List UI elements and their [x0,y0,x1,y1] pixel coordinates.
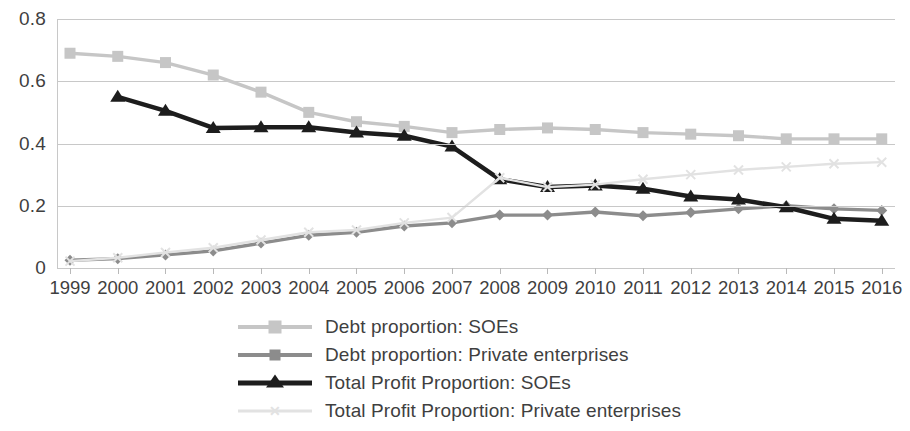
legend-marker: ✕ [269,404,281,418]
square-marker [238,317,312,337]
x-tick [500,268,501,274]
x-tick [595,268,596,274]
x-tick [452,268,453,274]
series-1 [65,48,888,145]
x-tick-label: 2008 [479,277,520,299]
diamond-data-marker [637,210,648,221]
legend-item[interactable]: Debt proportion: SOEs [238,314,518,340]
x-tick-label: 2011 [623,277,662,299]
square-data-marker [255,87,266,98]
x-tick-label: 2015 [814,277,855,299]
diamond-data-marker [590,206,601,217]
series-4 [66,158,887,266]
plot-area [57,19,895,268]
x-tick [547,268,548,274]
x-tick-label: 2014 [766,277,807,299]
x-tick-label: 2002 [193,277,234,299]
x-tick-label: 2016 [861,277,902,299]
y-tick-label: 0.8 [19,8,46,30]
gridline [57,206,895,207]
x-tick [356,268,357,274]
x-tick [738,268,739,274]
x-axis: 1999200020012002200320042005200620072008… [57,277,895,305]
y-axis: 00.20.40.60.8 [0,0,56,300]
x-tick [691,268,692,274]
diamond-marker [238,345,312,365]
x-tick-label: 2007 [432,277,473,299]
triangle-marker [238,373,312,393]
diamond-data-marker [542,210,553,221]
legend-item[interactable]: Total Profit Proportion: SOEs [238,370,571,396]
x-tick-label: 1999 [50,277,91,299]
square-data-marker [590,124,601,135]
legend-marker [270,350,281,361]
x-tick-label: 2004 [288,277,329,299]
legend-marker [266,375,284,388]
x-tick [404,268,405,274]
x-tick [261,268,262,274]
x-tick [643,268,644,274]
series-line [70,53,882,139]
series-line [70,206,882,260]
square-data-marker [65,48,76,59]
legend-label: Total Profit Proportion: SOEs [325,372,571,394]
square-data-marker [733,130,744,141]
chart-legend: Debt proportion: SOEsDebt proportion: Pr… [0,314,910,431]
legend-label: Debt proportion: Private enterprises [325,344,629,366]
gridline [57,81,895,82]
square-data-marker [446,127,457,138]
gridline [57,268,895,269]
x-tick [70,268,71,274]
legend-marker [269,321,282,334]
square-data-marker [208,70,219,81]
square-data-marker [494,124,505,135]
x-tick [309,268,310,274]
square-data-marker [112,51,123,62]
legend-item[interactable]: ✕Total Profit Proportion: Private enterp… [238,398,681,424]
diamond-data-marker [494,210,505,221]
x-tick-label: 2003 [241,277,282,299]
square-data-marker [685,129,696,140]
x-tick [213,268,214,274]
plot-region: 00.20.40.60.8 19992000200120022003200420… [0,0,910,300]
x-tick-label: 2005 [336,277,377,299]
series-line [70,162,882,261]
triangle-data-marker [110,90,125,102]
x-tick-label: 2000 [97,277,138,299]
x-tick [165,268,166,274]
x-tick-label: 2006 [384,277,425,299]
x-tick-label: 2012 [670,277,711,299]
x-tick [118,268,119,274]
series-line [118,97,882,221]
x-tick [834,268,835,274]
square-data-marker [303,107,314,118]
x-marker: ✕ [238,401,312,421]
diamond-data-marker [685,207,696,218]
y-tick-label: 0.6 [19,70,46,92]
square-data-marker [637,127,648,138]
gridline [57,19,895,20]
y-tick-label: 0.2 [19,195,46,217]
x-tick-label: 2010 [575,277,616,299]
legend-label: Total Profit Proportion: Private enterpr… [325,400,681,422]
square-data-marker [160,57,171,68]
x-tick-label: 2013 [718,277,759,299]
y-tick-label: 0 [35,257,46,279]
series-2 [65,200,888,265]
line-chart: 00.20.40.60.8 19992000200120022003200420… [0,0,910,431]
legend-label: Debt proportion: SOEs [325,316,518,338]
x-tick-label: 2009 [527,277,568,299]
square-data-marker [351,116,362,127]
x-tick-label: 2001 [145,277,186,299]
x-tick [882,268,883,274]
gridline [57,144,895,145]
y-tick-label: 0.4 [19,133,46,155]
square-data-marker [542,122,553,133]
x-tick [786,268,787,274]
legend-item[interactable]: Debt proportion: Private enterprises [238,342,629,368]
